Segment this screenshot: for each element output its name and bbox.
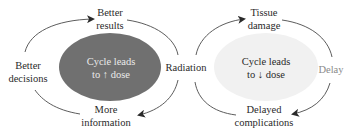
better-results-line2: results — [96, 19, 123, 32]
tissue-damage-line2: damage — [248, 19, 281, 32]
delay-label: Delay — [318, 63, 343, 76]
delayed-complications-label: Delayed complications — [235, 103, 294, 129]
delayed-complications-line1: Delayed — [235, 103, 294, 116]
better-results-label: Better results — [96, 6, 123, 32]
left-cycle-center-label: Cycle leads to ↑ dose — [87, 55, 136, 81]
more-information-line2: information — [81, 116, 131, 129]
right-center-line1: Cycle leads — [242, 55, 291, 68]
tissue-damage-line1: Tissue — [248, 6, 281, 19]
more-information-line1: More — [81, 103, 131, 116]
right-cycle-center-label: Cycle leads to ↓ dose — [242, 55, 291, 81]
more-information-label: More information — [81, 103, 131, 129]
delay-text: Delay — [318, 63, 343, 76]
right-center-line2: to ↓ dose — [242, 68, 291, 81]
better-decisions-line2: decisions — [8, 72, 47, 85]
better-results-line1: Better — [96, 6, 123, 19]
arc-information-to-decisions — [35, 90, 80, 114]
left-center-line2: to ↑ dose — [87, 68, 136, 81]
delayed-complications-line2: complications — [235, 116, 294, 129]
left-center-line1: Cycle leads — [87, 55, 136, 68]
radiation-text: Radiation — [166, 61, 207, 74]
radiation-label: Radiation — [166, 61, 207, 74]
better-decisions-label: Better decisions — [8, 59, 47, 85]
better-decisions-line1: Better — [8, 59, 47, 72]
tissue-damage-label: Tissue damage — [248, 6, 281, 32]
